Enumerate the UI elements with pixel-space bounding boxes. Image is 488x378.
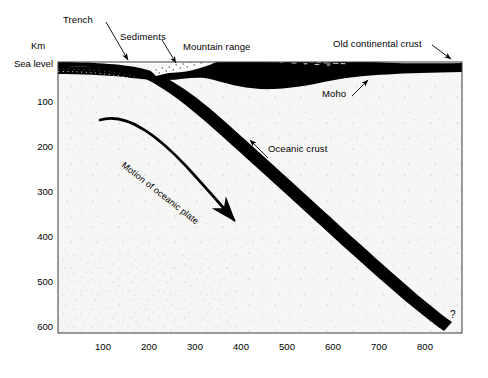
trench-label: Trench	[63, 14, 93, 25]
y-tick-300: 300	[0, 186, 53, 197]
subduction-zone-figure: Km Sea level 100 200 300 400 500 600 100…	[0, 0, 488, 378]
y-tick-600: 600	[0, 321, 53, 332]
oceanic-crust-label: Oceanic crust	[268, 143, 327, 154]
sediments-label: Sediments	[120, 31, 166, 42]
x-tick-600: 600	[313, 341, 353, 352]
moho-label: Moho	[322, 88, 346, 99]
x-tick-100: 100	[83, 341, 123, 352]
y-tick-400: 400	[0, 231, 53, 242]
old-continental-crust-leader-line	[432, 45, 451, 59]
y-tick-100: 100	[0, 96, 53, 107]
x-tick-700: 700	[359, 341, 399, 352]
y-tick-200: 200	[0, 141, 53, 152]
x-tick-500: 500	[267, 341, 307, 352]
cross-section-drawing	[0, 0, 488, 378]
y-tick-500: 500	[0, 276, 53, 287]
y-axis-sea-level-label: Sea level	[0, 58, 53, 69]
old-continental-crust-label: Old continental crust	[333, 38, 422, 49]
x-tick-800: 800	[405, 341, 445, 352]
uncertain-marker-label: ?	[450, 309, 456, 320]
sediments-leader-line	[162, 40, 176, 63]
x-tick-300: 300	[175, 341, 215, 352]
mountain-range-label: Mountain range	[183, 41, 250, 52]
x-tick-200: 200	[129, 341, 169, 352]
x-tick-400: 400	[221, 341, 261, 352]
y-axis-unit-label: Km	[0, 40, 76, 51]
